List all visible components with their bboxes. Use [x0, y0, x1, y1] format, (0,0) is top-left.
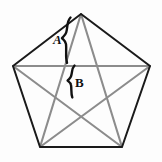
brace-b-path [68, 66, 75, 98]
star-edge-bottomright-to-left [13, 66, 122, 147]
label-segment-a: A [53, 33, 62, 46]
label-segment-b: B [75, 76, 84, 89]
star-edge-top-to-bottomright [81, 14, 122, 147]
star-edge-right-to-bottomleft [40, 66, 150, 147]
figure-container: A B [0, 0, 162, 162]
brace-b [68, 66, 75, 98]
